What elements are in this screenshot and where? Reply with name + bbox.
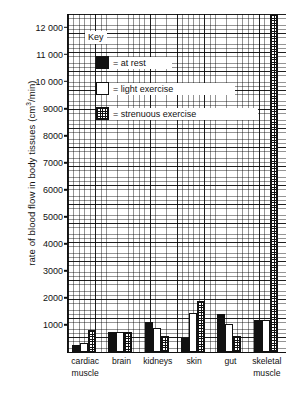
bar-rest	[72, 345, 80, 352]
bar-rest	[254, 320, 262, 352]
bar-light	[116, 332, 124, 352]
legend-swatch-strenuous-exercise	[96, 107, 109, 120]
bar-stren	[197, 301, 205, 352]
bar-rest	[217, 314, 225, 352]
bar-group	[254, 14, 278, 352]
y-tick-label: 6000	[3, 185, 68, 194]
y-tick-label: 9000	[3, 104, 68, 113]
bar-light	[153, 328, 161, 352]
y-tick-label: 2000	[3, 293, 68, 302]
bar-light	[262, 320, 270, 352]
bar-light	[80, 343, 88, 352]
legend-title: Key	[85, 31, 107, 44]
bar-rest	[181, 338, 189, 352]
legend-item-at-rest: = at rest	[96, 56, 172, 69]
legend-swatch-light-exercise	[96, 82, 109, 95]
y-tick-label: 12 000	[3, 23, 68, 32]
y-tick-label: 4000	[3, 239, 68, 248]
y-tick-label: 3000	[3, 266, 68, 275]
bar-stren	[270, 14, 278, 352]
legend-label-light-exercise: = light exercise	[109, 83, 235, 95]
legend-label-at-rest: = at rest	[109, 57, 172, 69]
y-tick-label: 7000	[3, 158, 68, 167]
x-tick-label: skeletal muscle	[243, 356, 291, 379]
bar-group	[181, 301, 205, 352]
bar-light	[225, 324, 233, 352]
bar-group	[217, 314, 241, 352]
blood-flow-bar-chart: rate of blood flow in body tissues (cm3/…	[0, 0, 307, 397]
y-tick-label: 10 000	[3, 77, 68, 86]
bar-group	[72, 330, 96, 352]
bar-group	[145, 322, 169, 352]
bar-stren	[88, 330, 96, 352]
legend-item-strenuous-exercise: = strenuous exercise	[96, 107, 258, 120]
legend-label-strenuous-exercise: = strenuous exercise	[109, 108, 258, 120]
legend-swatch-at-rest	[96, 56, 109, 69]
y-tick-label: 5000	[3, 212, 68, 221]
bar-stren	[161, 336, 169, 352]
bar-rest	[108, 332, 116, 352]
y-tick-label: 1000	[3, 320, 68, 329]
bar-light	[189, 313, 197, 352]
bar-group	[108, 332, 132, 352]
y-tick-label: 8000	[3, 131, 68, 140]
bar-rest	[145, 322, 153, 352]
bar-stren	[124, 332, 132, 352]
legend-item-light-exercise: = light exercise	[96, 82, 235, 95]
y-tick-label: 11 000	[3, 50, 68, 59]
bar-stren	[233, 336, 241, 352]
